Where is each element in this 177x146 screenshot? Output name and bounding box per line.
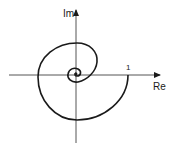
origin-point bbox=[75, 73, 78, 76]
real-axis-label: Re bbox=[153, 82, 166, 92]
diagram-canvas bbox=[0, 0, 177, 146]
spiral-curve bbox=[38, 43, 128, 120]
unit-tick-label: 1 bbox=[126, 64, 130, 72]
imaginary-axis-label: Im bbox=[63, 9, 74, 19]
